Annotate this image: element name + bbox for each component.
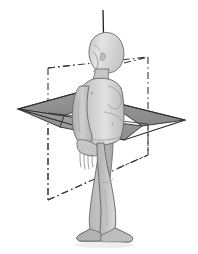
figure-canvas [0,0,198,254]
anatomical-planes-figure: Anatomical planes of the human body [0,0,198,254]
longitudinal-axis-line [103,10,104,34]
